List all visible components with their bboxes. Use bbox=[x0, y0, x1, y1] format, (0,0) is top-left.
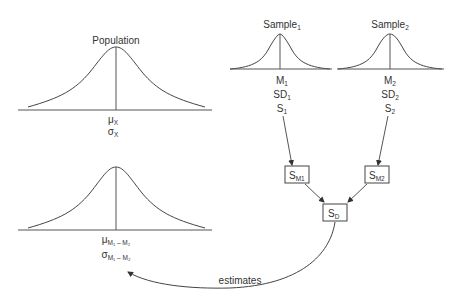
population-mean-label: μX bbox=[108, 114, 119, 126]
sm2-box: SM2 bbox=[365, 166, 389, 183]
population-distribution: Population μX σX bbox=[18, 35, 212, 138]
population-title: Population bbox=[92, 35, 139, 46]
sample-1-distribution: Sample1 M1 SD1 S1 bbox=[230, 19, 332, 115]
arrow-sm1-to-sd bbox=[305, 184, 324, 202]
sample-2-distribution: Sample2 M2 SD2 S2 bbox=[337, 19, 444, 115]
population-sd-label: σX bbox=[108, 126, 119, 138]
sample-2-s: S2 bbox=[385, 103, 396, 115]
difference-mean-label: μM₁ – M₂ bbox=[102, 234, 131, 246]
sample-1-s: S1 bbox=[277, 103, 288, 115]
difference-distribution: μM₁ – M₂ σM₁ – M₂ bbox=[18, 167, 212, 261]
sample-1-sd: SD1 bbox=[273, 89, 291, 101]
sample-1-mean: M1 bbox=[276, 75, 288, 87]
difference-sd-label: σM₁ – M₂ bbox=[102, 249, 131, 261]
sample-1-title: Sample1 bbox=[263, 19, 301, 31]
diagram-canvas: Population μX σX μM₁ – M₂ σM₁ – M₂ Sampl… bbox=[0, 0, 459, 302]
estimates-label: estimates bbox=[219, 275, 262, 286]
arrow-s1-to-sm1 bbox=[283, 116, 292, 165]
sample-2-sd: SD2 bbox=[381, 89, 399, 101]
sample-2-mean: M2 bbox=[384, 75, 396, 87]
arrow-sm2-to-sd bbox=[348, 184, 367, 202]
sd-box: SD bbox=[323, 204, 347, 221]
sample-2-title: Sample2 bbox=[371, 19, 409, 31]
arrow-s2-to-sm2 bbox=[378, 116, 388, 165]
sm1-box: SM1 bbox=[285, 166, 309, 183]
